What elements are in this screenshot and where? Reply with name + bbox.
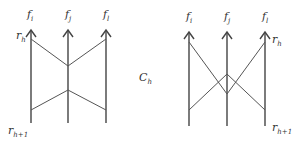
label-f-l: fl [261, 10, 268, 25]
braid-diagram: fi fj fl rh rh+1 Ch fi fj fl rh rh+1 [0, 0, 298, 143]
label-f-j: fj [64, 8, 72, 23]
label-c-h: Ch [139, 71, 152, 86]
label-r-h-plus-1: rh+1 [8, 124, 28, 139]
label-r-h: rh [272, 33, 282, 48]
label-f-l: fl [102, 8, 109, 23]
label-r-h: rh [16, 29, 26, 44]
label-f-i: fi [185, 10, 192, 25]
label-f-j: fj [223, 10, 231, 25]
left-diagram: fi fj fl rh rh+1 [8, 8, 111, 139]
label-f-i: fi [26, 8, 33, 23]
right-diagram: fi fj fl rh rh+1 [184, 10, 292, 136]
label-r-h-plus-1: rh+1 [272, 121, 292, 136]
